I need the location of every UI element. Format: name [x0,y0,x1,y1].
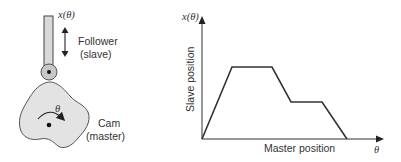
motion-profile-chart: x(θ) θ Master position Slave position [181,11,384,155]
slave-position-curve [202,67,347,139]
y-axis-arrow-icon [199,16,206,24]
cam-label: Cam [98,117,120,129]
x-axis-label: Master position [264,142,335,154]
cam-angle-label: θ [55,103,60,114]
y-axis-symbol: x(θ) [181,11,199,23]
roller-pin-icon [47,70,51,74]
displacement-arrow-icon [62,27,69,57]
x-axis-symbol: θ [374,144,379,155]
cam-shaft-icon [47,123,52,128]
y-axis-label: Slave position [184,46,196,112]
cam-sublabel: (master) [86,130,125,142]
cam-mechanism: x(θ) Follower (slave) θ Cam (master) [19,9,125,148]
follower-variable-label: x(θ) [57,9,75,21]
cam-follower-figure: x(θ) Follower (slave) θ Cam (master) x(θ… [0,0,401,162]
cam-body [19,82,89,148]
follower-sublabel: (slave) [80,48,112,60]
x-axis-arrow-icon [376,136,384,143]
follower-label: Follower [78,35,118,47]
